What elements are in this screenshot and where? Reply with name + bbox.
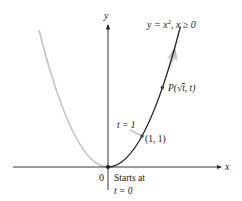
parabola-left-ghost [39,30,108,167]
origin-point [106,165,110,169]
t1-leader-line [130,130,140,135]
start-annotation-line2: t = 0 [114,186,133,196]
point-1-1-label: (1, 1) [145,134,166,145]
start-annotation-line1: Starts at [114,173,145,183]
origin-label: 0 [99,172,104,183]
x-axis-label: x [224,161,230,172]
curve-label: y = x2, x ≥ 0 [146,18,196,30]
point-P [161,86,165,90]
t1-annotation: t = 1 [117,120,136,130]
y-axis-label: y [103,10,109,21]
parametric-curve-diagram: y x 0 y = x2, x ≥ 0 P(√t, t) t = 1 (1, 1… [0,0,242,201]
point-P-label: P(√t, t) [167,83,195,94]
point-1-1 [140,134,144,138]
parabola-right-active [108,27,180,167]
